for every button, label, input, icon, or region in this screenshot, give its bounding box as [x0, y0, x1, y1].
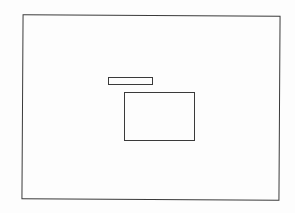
content-panel-placeholder [124, 92, 195, 141]
input-bar-placeholder [108, 77, 153, 85]
wireframe-canvas [0, 0, 295, 213]
